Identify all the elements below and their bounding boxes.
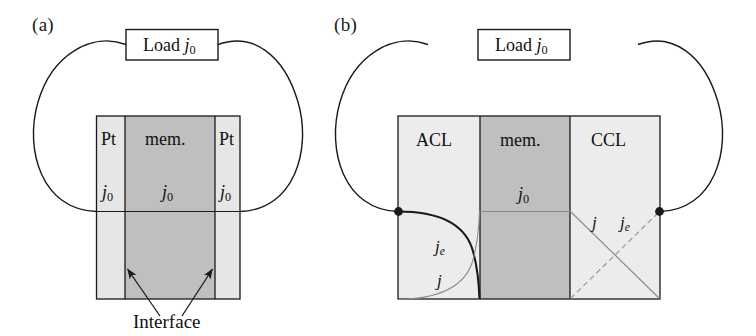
panel-a-graphics	[33, 30, 302, 317]
figure-graphics	[0, 0, 756, 336]
load-current-sub-b: 0	[542, 43, 548, 57]
current-label-mem-b: j0	[518, 185, 529, 206]
curve-label-acl-proton: j	[437, 272, 442, 292]
curve-label-ccl-electron: je	[620, 214, 630, 234]
interface-annotation-label: Interface	[133, 312, 201, 331]
panel-b-graphics	[335, 30, 722, 300]
layer-label-ccl: CCL	[591, 131, 626, 149]
layer-label-mem-a: mem.	[145, 130, 186, 148]
current-label-mem-a: j0	[162, 183, 173, 204]
load-text-b: Load	[495, 35, 532, 55]
load-text-a: Load	[143, 35, 180, 55]
contact-dot-right-b	[655, 207, 664, 216]
current-label-pt-right: j0	[220, 183, 231, 204]
curve-label-acl-electron: je	[435, 238, 445, 258]
layer-label-pt-left: Pt	[101, 130, 116, 148]
layer-label-pt-right: Pt	[219, 130, 234, 148]
layer-label-acl: ACL	[416, 131, 452, 149]
contact-dot-left-b	[394, 207, 403, 216]
figure-container: (a) Load j0 Pt mem. Pt j0 j0 j0 Interfac…	[0, 0, 756, 336]
layer-label-mem-b: mem.	[500, 131, 541, 149]
current-label-pt-left: j0	[102, 183, 113, 204]
load-label-a: Load j0	[143, 36, 196, 57]
curve-label-ccl-proton: j	[592, 214, 597, 234]
load-label-b: Load j0	[495, 36, 548, 57]
panel-a-label: (a)	[32, 14, 54, 36]
load-current-sub-a: 0	[190, 43, 196, 57]
panel-b-label: (b)	[334, 14, 357, 36]
